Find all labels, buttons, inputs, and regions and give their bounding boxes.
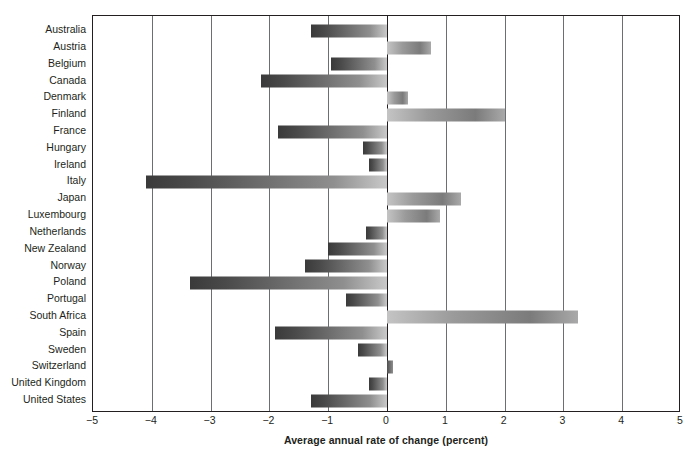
bar bbox=[387, 361, 393, 374]
bar bbox=[369, 159, 387, 172]
bar bbox=[387, 41, 431, 54]
bar-row bbox=[93, 391, 679, 410]
y-axis-label: United States bbox=[0, 390, 86, 409]
bar bbox=[346, 293, 387, 306]
bar-chart: AustraliaAustriaBelgiumCanadaDenmarkFinl… bbox=[0, 0, 698, 465]
bar bbox=[363, 142, 387, 155]
bar bbox=[366, 226, 387, 239]
bar bbox=[387, 192, 461, 205]
x-axis-tick-labels: −5−4−3−2−1012345 bbox=[92, 414, 680, 430]
bar bbox=[328, 243, 387, 256]
x-axis-tick: 1 bbox=[442, 414, 448, 426]
bar bbox=[311, 24, 387, 37]
x-axis-tick: −2 bbox=[262, 414, 274, 426]
x-axis-tick: 3 bbox=[559, 414, 565, 426]
x-axis-tick: −5 bbox=[86, 414, 98, 426]
bar bbox=[387, 91, 408, 104]
x-axis-tick: 5 bbox=[677, 414, 683, 426]
bar bbox=[190, 277, 387, 290]
bar-series bbox=[93, 16, 679, 411]
bar bbox=[387, 209, 440, 222]
bar bbox=[311, 394, 387, 407]
x-axis-title: Average annual rate of change (percent) bbox=[92, 434, 680, 446]
bar bbox=[387, 108, 505, 121]
bar bbox=[278, 125, 387, 138]
bar bbox=[146, 176, 387, 189]
bar bbox=[358, 344, 387, 357]
x-axis-tick: −3 bbox=[204, 414, 216, 426]
x-axis-tick: 2 bbox=[501, 414, 507, 426]
x-axis-tick: −1 bbox=[321, 414, 333, 426]
bar bbox=[305, 260, 387, 273]
bar bbox=[275, 327, 387, 340]
bar bbox=[261, 75, 387, 88]
x-axis-tick: 4 bbox=[618, 414, 624, 426]
y-axis-category-labels: AustraliaAustriaBelgiumCanadaDenmarkFinl… bbox=[0, 15, 86, 412]
plot-area bbox=[92, 15, 680, 412]
bar bbox=[331, 58, 387, 71]
x-axis-tick: −4 bbox=[145, 414, 157, 426]
bar bbox=[387, 310, 578, 323]
bar bbox=[369, 377, 387, 390]
x-axis-tick: 0 bbox=[383, 414, 389, 426]
